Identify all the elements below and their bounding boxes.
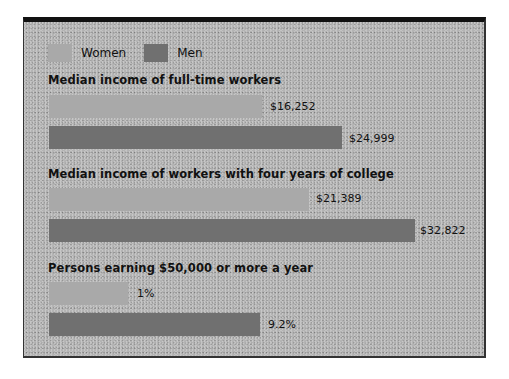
chart-frame: Women Men Median income of full-time wor…	[23, 17, 486, 358]
bar-men-50k	[49, 313, 260, 336]
bar-label-women-full-time: $16,252	[270, 95, 316, 118]
legend: Women Men	[48, 44, 203, 62]
bar-label-women-college: $21,389	[316, 187, 362, 210]
bar-men-college	[49, 219, 415, 242]
bar-men-full-time	[49, 126, 342, 149]
legend-swatch-men	[144, 44, 168, 62]
group-title-full-time: Median income of full-time workers	[48, 73, 281, 87]
bar-label-men-college: $32,822	[420, 219, 466, 242]
bar-label-men-50k: 9.2%	[268, 313, 296, 336]
bar-women-college	[49, 188, 309, 211]
legend-swatch-women	[48, 44, 72, 62]
bar-label-men-full-time: $24,999	[349, 127, 395, 150]
group-title-college: Median income of workers with four years…	[48, 167, 394, 181]
legend-label-men: Men	[177, 46, 202, 60]
group-title-50k: Persons earning $50,000 or more a year	[48, 261, 313, 275]
bar-women-full-time	[49, 95, 262, 118]
legend-item-women: Women	[48, 44, 126, 62]
legend-item-men: Men	[144, 44, 202, 62]
bar-label-women-50k: 1%	[137, 282, 154, 305]
legend-label-women: Women	[81, 46, 126, 60]
bar-women-50k	[49, 282, 128, 305]
